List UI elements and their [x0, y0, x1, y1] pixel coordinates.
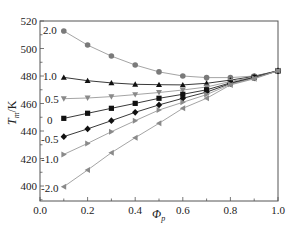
x-tick-label: 1.0 — [271, 204, 285, 216]
diamond-marker-icon — [132, 109, 138, 116]
diamond-marker-icon — [84, 126, 90, 133]
y-axis-title: Tm/K — [5, 100, 21, 125]
chart-container: 0.00.20.40.60.81.0400420440460480500520 … — [0, 0, 297, 233]
line-chart: 0.00.20.40.60.81.0400420440460480500520 … — [0, 0, 297, 233]
triangle-up-marker-icon — [61, 74, 67, 79]
series-label: 0 — [47, 114, 53, 126]
triangle-right-marker-icon — [61, 151, 66, 157]
series-labels: 2.01.00.50-0.5-1.0-2.0 — [41, 24, 59, 194]
square-marker-icon — [61, 116, 66, 121]
diamond-marker-icon — [108, 117, 114, 124]
series-label: 1.0 — [43, 70, 57, 82]
x-tick-label: 0.8 — [224, 204, 238, 216]
series-line — [64, 31, 278, 78]
triangle-right-marker-icon — [85, 140, 90, 146]
circle-marker-icon — [204, 75, 210, 81]
circle-marker-icon — [61, 28, 67, 34]
triangle-left-marker-icon — [156, 120, 161, 126]
circle-marker-icon — [132, 62, 138, 68]
triangle-left-marker-icon — [85, 167, 90, 173]
series-label: -1.0 — [41, 153, 59, 165]
x-tick-label: 0.4 — [128, 204, 142, 216]
x-tick-label: 0.2 — [81, 204, 95, 216]
series--2.0 — [61, 68, 281, 190]
y-tick-label: 460 — [21, 98, 38, 110]
series-label: 0.5 — [45, 93, 59, 105]
y-tick-label: 500 — [21, 43, 38, 55]
circle-marker-icon — [109, 53, 115, 59]
series-label: 2.0 — [43, 24, 57, 36]
triangle-right-marker-icon — [133, 118, 138, 124]
circle-marker-icon — [156, 69, 162, 75]
x-tick-label: 0.6 — [176, 204, 190, 216]
series-line — [64, 71, 278, 155]
series-line — [64, 71, 278, 187]
x-axis-title-main: Φ — [152, 207, 161, 221]
square-marker-icon — [109, 106, 114, 111]
series-1.0 — [61, 68, 281, 88]
triangle-left-marker-icon — [132, 135, 137, 141]
y-tick-label: 420 — [21, 153, 38, 165]
axes: 0.00.20.40.60.81.0400420440460480500520 — [21, 15, 286, 216]
y-tick-label: 400 — [21, 180, 38, 192]
x-tick-label: 0.0 — [33, 204, 47, 216]
series-line — [64, 71, 278, 85]
triangle-left-marker-icon — [61, 184, 66, 190]
triangle-right-marker-icon — [109, 129, 114, 135]
square-marker-icon — [156, 96, 161, 101]
square-marker-icon — [85, 111, 90, 116]
diamond-marker-icon — [61, 133, 67, 140]
series-label: -0.5 — [41, 133, 59, 145]
y-tick-label: 520 — [21, 15, 38, 27]
series-2.0 — [61, 28, 281, 80]
y-tick-label: 480 — [21, 70, 38, 82]
circle-marker-icon — [180, 73, 186, 79]
triangle-left-marker-icon — [180, 105, 185, 111]
x-axis-title: Φp — [152, 207, 165, 223]
y-axis-title-unit: /K — [5, 100, 19, 112]
square-marker-icon — [133, 101, 138, 106]
series-group — [61, 28, 282, 189]
y-tick-label: 440 — [21, 125, 38, 137]
series-label: -2.0 — [41, 182, 59, 194]
circle-marker-icon — [85, 42, 91, 48]
x-axis-title-sub: p — [160, 214, 165, 223]
